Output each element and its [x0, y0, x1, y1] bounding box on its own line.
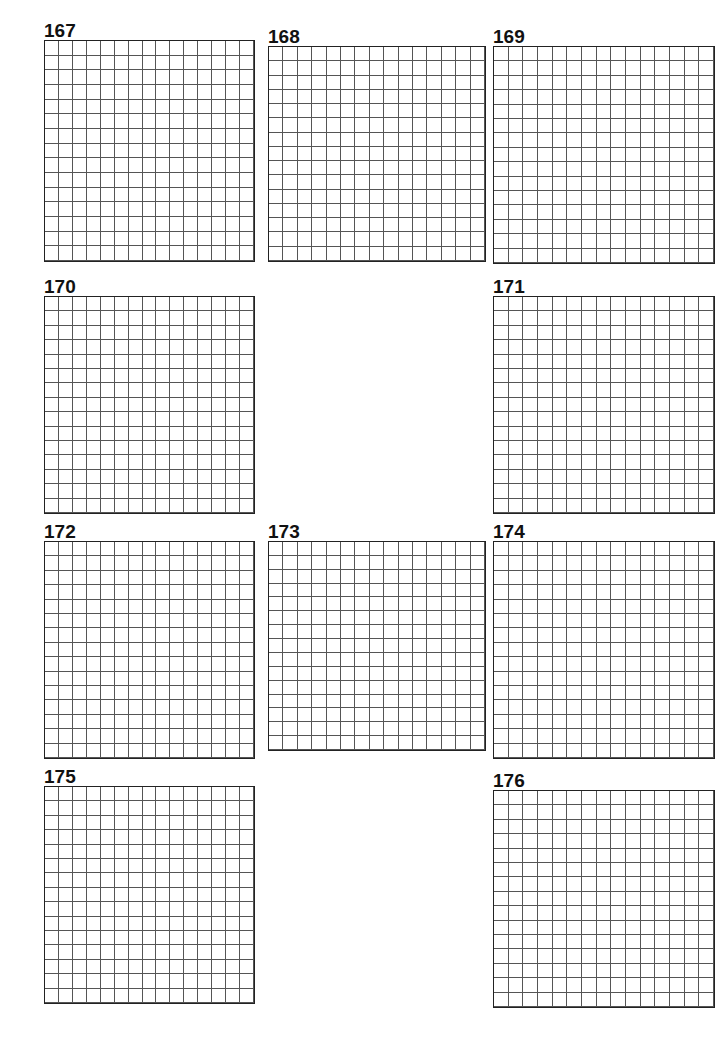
grid-cell [553, 76, 568, 90]
grid-cell [670, 90, 685, 104]
grid-cell [240, 188, 254, 203]
grid-cell [298, 736, 312, 750]
grid-cell [523, 949, 538, 963]
grid-cell [456, 667, 470, 681]
grid-cell [670, 935, 685, 949]
grid-cell [143, 499, 157, 513]
grid-cell [59, 455, 73, 469]
grid-cell [212, 173, 226, 188]
grid-cell [298, 76, 312, 90]
grid-cell [597, 455, 612, 469]
grid-cell [170, 383, 184, 397]
grid-cell [538, 729, 553, 743]
grid-cell [685, 234, 700, 248]
grid-cell [582, 297, 597, 311]
grid-cell [129, 888, 143, 902]
grid-cell [685, 964, 700, 978]
grid-cell [341, 736, 355, 750]
grid-cell [226, 114, 240, 129]
grid-cell [226, 600, 240, 614]
grid-cell [442, 204, 456, 218]
grid-cell [670, 340, 685, 354]
grid-cell [399, 61, 413, 75]
grid-cell [73, 657, 87, 671]
grid-cell [73, 85, 87, 100]
grid-cell [184, 859, 198, 873]
grid-cell [370, 611, 384, 625]
grid-cell [442, 667, 456, 681]
grid-cell [156, 398, 170, 412]
grid-cell [442, 247, 456, 261]
grid-cell [87, 70, 101, 85]
grid-cell [87, 657, 101, 671]
grid-cell [143, 412, 157, 426]
grid-cell [240, 917, 254, 931]
grid-cell [156, 859, 170, 873]
grid-cell [101, 729, 115, 743]
grid-cell [143, 672, 157, 686]
grid-cell [670, 427, 685, 441]
grid-cell [59, 398, 73, 412]
grid-cell [567, 585, 582, 599]
grid-cell [355, 667, 369, 681]
grid-cell [670, 105, 685, 119]
grid-cell [226, 202, 240, 217]
grid-cell [143, 129, 157, 144]
grid-cell [59, 830, 73, 844]
grid-cell [413, 695, 427, 709]
grid-cell [143, 340, 157, 354]
grid-cell [45, 859, 59, 873]
grid-cell [567, 600, 582, 614]
grid-cell [611, 326, 626, 340]
grid-cell [184, 628, 198, 642]
grid-cell [567, 499, 582, 513]
grid-cell [670, 177, 685, 191]
grid-cell [567, 177, 582, 191]
grid-cell [699, 949, 714, 963]
grid-cell [269, 175, 283, 189]
grid-cell [240, 398, 254, 412]
grid-cell [670, 892, 685, 906]
grid-cell [212, 217, 226, 232]
grid-cell [509, 600, 524, 614]
grid-cell [129, 383, 143, 397]
grid-cell [611, 834, 626, 848]
grid-cell [73, 70, 87, 85]
grid-cell [170, 217, 184, 232]
grid-cell [198, 672, 212, 686]
grid-cell [170, 974, 184, 988]
grid-cell [240, 643, 254, 657]
grid-cell [494, 484, 509, 498]
grid-cell [582, 877, 597, 891]
grid-cell [582, 441, 597, 455]
grid-cell [611, 686, 626, 700]
grid-cell [156, 326, 170, 340]
grid-cell [45, 484, 59, 498]
grid-cell [115, 311, 129, 325]
grid-cell [198, 801, 212, 815]
grid-cell [538, 834, 553, 848]
grid-cell [184, 484, 198, 498]
grid-cell [370, 232, 384, 246]
grid-cell [611, 105, 626, 119]
grid-cell [327, 695, 341, 709]
grid-cell [226, 571, 240, 585]
grid-cell [212, 571, 226, 585]
grid-cell [626, 935, 641, 949]
grid-cell [170, 340, 184, 354]
grid-cell [143, 369, 157, 383]
grid-cell [355, 681, 369, 695]
grid-cell [226, 173, 240, 188]
grid-cell [699, 162, 714, 176]
grid-cell [115, 484, 129, 498]
grid-cell [115, 542, 129, 556]
grid-cell [567, 906, 582, 920]
grid-cell [212, 355, 226, 369]
grid-cell [582, 978, 597, 992]
grid-cell [240, 888, 254, 902]
grid-cell [494, 949, 509, 963]
grid-cell [143, 917, 157, 931]
grid-cell [327, 90, 341, 104]
grid-cell [73, 412, 87, 426]
grid-cell [115, 643, 129, 657]
